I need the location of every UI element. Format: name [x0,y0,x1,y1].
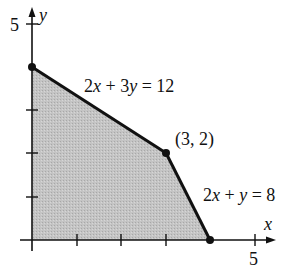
vertex-4-0 [206,236,214,244]
equation-label-2x-y-8: 2x + y = 8 [203,185,275,205]
x-tick-label-5: 5 [249,249,258,269]
equation-label-2x-3y-12: 2x + 3y = 12 [84,76,174,96]
y-tick-label-5: 5 [10,15,19,35]
y-axis-arrow-icon [29,7,36,17]
x-axis-arrow-icon [266,237,276,244]
feasible-region-chart: y x 5 5 2x + 3y = 12 (3, 2) 2x + y = 8 [0,0,301,279]
vertex-3-2 [162,149,170,157]
vertex-0-4 [28,63,36,71]
x-axis-label: x [263,214,272,234]
y-axis-label: y [37,5,47,25]
vertex-label-3-2: (3, 2) [175,129,214,150]
